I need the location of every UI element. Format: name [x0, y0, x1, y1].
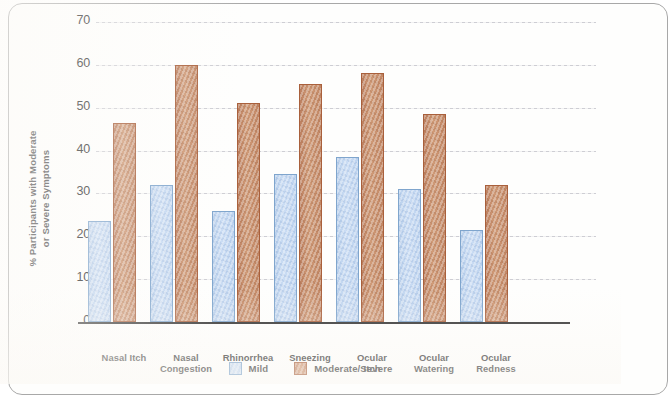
bar-moderate-severe-ocular-itch — [361, 73, 384, 322]
bar-moderate-severe-ocular-redness — [485, 185, 508, 322]
bar-mild-nasal-itch — [88, 221, 111, 322]
gridline — [96, 65, 596, 66]
gridline — [96, 108, 596, 109]
bar-mild-ocular-itch — [336, 157, 359, 322]
legend-entry-mild: Mild — [229, 362, 269, 375]
y-axis-tick-label: 70 — [30, 13, 90, 27]
legend-swatch-icon — [229, 362, 242, 375]
chart-legend: MildModerate/Severe — [0, 362, 621, 375]
legend-swatch-icon — [294, 362, 307, 375]
legend-label: Mild — [249, 363, 269, 374]
y-axis-tick-label: 0 — [30, 313, 90, 327]
legend-entry-moderate-severe: Moderate/Severe — [294, 362, 392, 375]
bar-moderate-severe-ocular-watering — [423, 114, 446, 322]
bar-mild-sneezing — [274, 174, 297, 322]
y-axis-tick-label: 40 — [30, 142, 90, 156]
y-axis-tick-label: 50 — [30, 99, 90, 113]
y-axis-tick-label: 20 — [30, 227, 90, 241]
bar-moderate-severe-nasal-itch — [113, 123, 136, 322]
bar-moderate-severe-rhinorrhea — [237, 103, 260, 322]
gridline — [96, 22, 596, 23]
y-axis-tick-label: 60 — [30, 56, 90, 70]
bar-moderate-severe-nasal-congestion — [175, 65, 198, 322]
y-axis-tick-label: 30 — [30, 184, 90, 198]
bar-mild-nasal-congestion — [150, 185, 173, 322]
bar-moderate-severe-sneezing — [299, 84, 322, 322]
y-axis-tick-label: 10 — [30, 270, 90, 284]
bar-mild-rhinorrhea — [212, 211, 235, 322]
gridline — [96, 151, 596, 152]
legend-label: Moderate/Severe — [314, 363, 392, 374]
x-axis-baseline — [78, 322, 570, 324]
bar-mild-ocular-watering — [398, 189, 421, 322]
bar-mild-ocular-redness — [460, 230, 483, 322]
plot-area: 706050403020100 Nasal ItchNasalCongestio… — [96, 22, 596, 322]
